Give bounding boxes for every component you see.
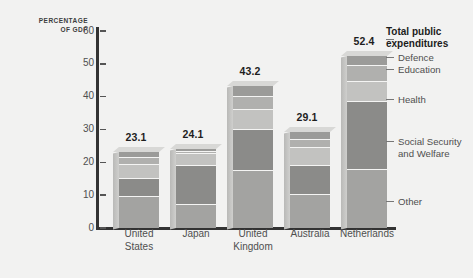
legend-item-education: Education xyxy=(386,64,441,76)
bar-segment-education xyxy=(233,97,273,111)
bar-stack xyxy=(347,56,387,228)
country-label-line2: Kingdom xyxy=(233,241,272,252)
country-label-line1: Australia xyxy=(291,228,330,239)
bar-stack xyxy=(290,132,330,228)
bar-value-label: 23.1 xyxy=(106,131,166,143)
bar-stack xyxy=(119,152,159,228)
legend-label-defence: Defence xyxy=(398,52,434,64)
bar-segment-health xyxy=(233,110,273,130)
y-tick-60 xyxy=(100,30,106,31)
country-label-line1: United xyxy=(125,228,154,239)
legend-item-social-security: Social Security and Welfare xyxy=(386,136,461,159)
stacked-bar-chart: PERCENTAGE OF GDP 0102030405060 23.1Unit… xyxy=(0,0,473,278)
y-tick-50 xyxy=(100,63,106,64)
legend-leader-icon xyxy=(386,69,394,70)
bar-value-label: 43.2 xyxy=(220,65,280,77)
bar-segment-other xyxy=(347,170,387,228)
y-axis-title-line1: PERCENTAGE xyxy=(10,17,88,26)
legend-leader-icon xyxy=(386,99,394,100)
y-tick-label-40: 40 xyxy=(68,91,94,101)
bar-stack xyxy=(233,86,273,228)
bar-group-australia: 29.1Australia xyxy=(284,132,330,228)
legend-leader-icon xyxy=(386,201,394,202)
bar-segment-other xyxy=(290,195,330,228)
bar-group-netherlands: 52.4Netherlands xyxy=(341,56,387,228)
y-tick-40 xyxy=(100,96,106,97)
country-label-line2: States xyxy=(125,241,153,252)
legend-title-line2: expenditures xyxy=(386,38,473,50)
bar-segment-other xyxy=(233,171,273,228)
y-tick-10 xyxy=(100,194,106,195)
bar-segment-social-security-and-welfare xyxy=(347,102,387,169)
y-tick-label-20: 20 xyxy=(68,157,94,167)
bar-value-label: 24.1 xyxy=(163,128,223,140)
legend-label-education: Education xyxy=(398,64,441,76)
bar-segment-defence xyxy=(233,86,273,97)
bar-segment-social-security-and-welfare xyxy=(176,166,216,205)
bar-segment-education xyxy=(347,66,387,82)
bar-segment-health xyxy=(119,165,159,179)
legend: Total public expenditures Defence Educat… xyxy=(386,26,473,52)
bar-segment-other xyxy=(176,205,216,228)
y-tick-30 xyxy=(100,129,106,130)
legend-label-social-line2: and Welfare xyxy=(398,148,450,159)
bar-group-japan: 24.1Japan xyxy=(170,149,216,228)
bar-segment-health xyxy=(176,154,216,165)
legend-item-other: Other xyxy=(386,196,422,208)
bar-value-label: 29.1 xyxy=(277,111,337,123)
bar-segment-social-security-and-welfare xyxy=(119,179,159,197)
y-tick-label-60: 60 xyxy=(68,26,94,36)
y-tick-label-30: 30 xyxy=(68,124,94,134)
y-axis-line xyxy=(96,27,99,230)
legend-leader-icon xyxy=(386,141,394,142)
bar-value-label: 52.4 xyxy=(334,35,394,47)
bar-group-united-states: 23.1UnitedStates xyxy=(113,152,159,228)
bar-segment-education xyxy=(119,158,159,165)
bar-segment-other xyxy=(119,197,159,228)
bar-group-united-kingdom: 43.2UnitedKingdom xyxy=(227,86,273,228)
bar-segment-defence xyxy=(290,132,330,139)
bar-segment-education xyxy=(290,140,330,149)
y-tick-20 xyxy=(100,162,106,163)
legend-item-health: Health xyxy=(386,94,426,106)
bar-segment-health xyxy=(290,148,330,166)
legend-label-health: Health xyxy=(398,94,426,106)
y-tick-label-50: 50 xyxy=(68,58,94,68)
bar-segment-health xyxy=(347,82,387,102)
bar-segment-education xyxy=(176,152,216,155)
legend-label-other: Other xyxy=(398,196,422,208)
legend-label-social-security: Social Security and Welfare xyxy=(398,136,461,159)
country-label-line1: Netherlands xyxy=(340,228,394,239)
country-label-line1: Japan xyxy=(182,228,209,239)
y-tick-label-0: 0 xyxy=(68,223,94,233)
y-tick-label-10: 10 xyxy=(68,190,94,200)
legend-title: Total public expenditures xyxy=(386,26,473,51)
x-axis-country-label: Netherlands xyxy=(330,228,404,241)
legend-leader-total xyxy=(386,39,394,40)
bar-segment-defence xyxy=(176,149,216,152)
legend-item-defence: Defence xyxy=(386,52,434,64)
legend-leader-icon xyxy=(386,57,394,58)
legend-title-line1: Total public xyxy=(386,26,473,38)
country-label-line1: United xyxy=(239,228,268,239)
legend-label-social-line1: Social Security xyxy=(398,136,461,147)
bar-segment-social-security-and-welfare xyxy=(233,130,273,170)
bar-segment-defence xyxy=(347,56,387,66)
bar-stack xyxy=(176,149,216,228)
bar-segment-social-security-and-welfare xyxy=(290,166,330,195)
bar-segment-defence xyxy=(119,152,159,158)
